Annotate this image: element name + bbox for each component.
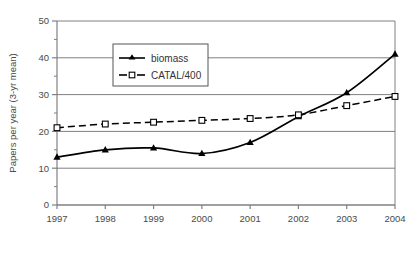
chart-legend: biomass CATAL/400 xyxy=(113,44,208,86)
y-tick-label: 30 xyxy=(38,89,49,100)
data-point-marker xyxy=(151,119,157,125)
x-tick-label: 2003 xyxy=(336,213,357,224)
y-tick-label: 20 xyxy=(38,126,49,137)
open-square-icon xyxy=(129,72,135,78)
x-tick-label: 2001 xyxy=(240,213,261,224)
chart-svg: Papers per year (3-yr mean) 01020304050 … xyxy=(0,0,418,255)
data-point-marker xyxy=(392,94,398,100)
y-tick-label: 10 xyxy=(38,163,49,174)
y-tick-label: 40 xyxy=(38,52,49,63)
data-point-marker xyxy=(102,121,108,127)
data-point-marker xyxy=(344,103,350,109)
line-chart: Papers per year (3-yr mean) 01020304050 … xyxy=(0,0,418,255)
x-tick-label: 1998 xyxy=(95,213,116,224)
data-point-marker xyxy=(54,125,60,131)
data-point-marker xyxy=(199,117,205,123)
x-tick-label: 2000 xyxy=(191,213,212,224)
y-tick-label: 50 xyxy=(38,15,49,26)
y-tick-label: 0 xyxy=(44,199,49,210)
legend-label-catal: CATAL/400 xyxy=(151,70,202,81)
x-tick-label: 1997 xyxy=(46,213,67,224)
data-point-marker xyxy=(247,116,253,122)
x-tick-label: 1999 xyxy=(143,213,164,224)
legend-label-biomass: biomass xyxy=(151,53,188,64)
x-tick-label: 2002 xyxy=(288,213,309,224)
x-tick-label: 2004 xyxy=(384,213,405,224)
data-point-marker xyxy=(296,112,302,118)
y-axis-title: Papers per year (3-yr mean) xyxy=(7,53,18,172)
